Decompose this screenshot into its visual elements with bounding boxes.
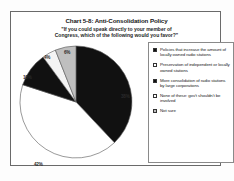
legend-swatch-open-icon: [153, 94, 157, 98]
legend-item: Preservation of independent or locally o…: [153, 62, 230, 73]
chart-page: Chart 5-8: Anti-Consolidation Policy "If…: [0, 0, 234, 181]
pie-svg: [15, 41, 137, 163]
pie-chart: [15, 41, 137, 163]
legend-item: Policies that increase the amount of loc…: [153, 47, 230, 58]
legend-item: None of these: gov't shouldn't be involv…: [153, 93, 230, 104]
legend-item-label: None of these: gov't shouldn't be involv…: [160, 93, 230, 104]
legend-item-label: Preservation of independent or locally o…: [160, 62, 230, 73]
pie-label-1: 38%: [121, 94, 130, 99]
pie-label-2: 42%: [34, 162, 43, 167]
pie-label-5: 6%: [64, 50, 70, 55]
legend-swatch-gray-icon: [153, 109, 157, 113]
pie-label-3: 10%: [23, 75, 32, 80]
chart-heading: Chart 5-8: Anti-Consolidation Policy "If…: [11, 17, 222, 38]
legend-item-label: More consolidation of radio stations by …: [160, 78, 230, 89]
chart-frame: Chart 5-8: Anti-Consolidation Policy "If…: [10, 11, 221, 166]
legend-item: Not sure: [153, 108, 230, 113]
chart-title: Chart 5-8: Anti-Consolidation Policy: [11, 17, 222, 25]
legend-swatch-open-icon: [153, 63, 157, 67]
chart-legend: Policies that increase the amount of loc…: [148, 42, 234, 163]
legend-item-label: Not sure: [160, 108, 176, 113]
legend-item: More consolidation of radio stations by …: [153, 78, 230, 89]
chart-subtitle: "If you could speak directly to your mem…: [11, 26, 222, 38]
legend-swatch-filled-icon: [153, 48, 157, 52]
pie-label-4: 4%: [44, 55, 50, 60]
legend-swatch-filled-icon: [153, 79, 157, 83]
legend-item-label: Policies that increase the amount of loc…: [160, 47, 230, 58]
